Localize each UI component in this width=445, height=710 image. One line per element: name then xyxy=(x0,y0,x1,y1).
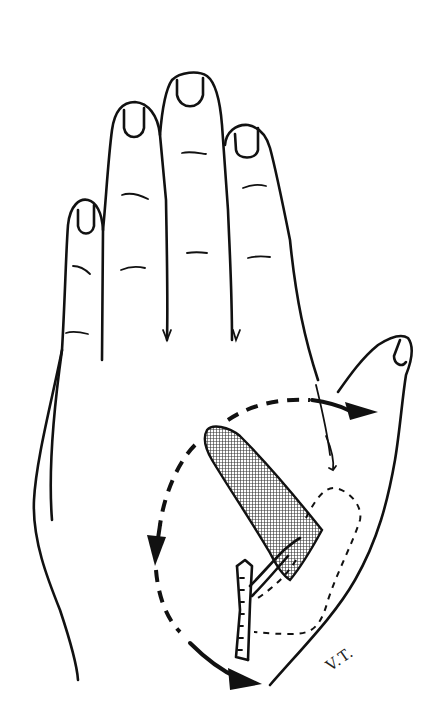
arrowhead-down-right-icon xyxy=(228,668,262,690)
hatched-flap xyxy=(205,427,322,580)
tendon-line-lower xyxy=(326,436,336,470)
arrowhead-down-icon xyxy=(147,535,166,566)
middle-finger xyxy=(160,73,232,340)
upper-arc-to-thumb xyxy=(228,400,378,420)
middle-fingernail xyxy=(177,78,203,106)
tendon-line xyxy=(316,385,330,455)
arrowhead-right-icon xyxy=(345,402,378,420)
index-fingernail xyxy=(235,128,258,158)
lower-arc-to-wrist xyxy=(190,643,262,690)
hand-illustration: V.T. xyxy=(0,0,445,710)
left-arc-downward xyxy=(147,445,195,632)
ring-finger xyxy=(103,102,167,340)
hand-drawing xyxy=(0,0,445,710)
thumbnail xyxy=(394,340,406,365)
little-fingernail xyxy=(78,205,94,234)
ring-fingernail xyxy=(124,108,144,137)
index-finger xyxy=(225,125,318,380)
